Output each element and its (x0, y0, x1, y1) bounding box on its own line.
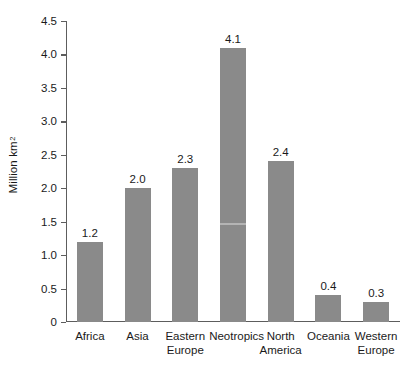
bar-value-label: 4.1 (225, 33, 241, 45)
bar-slot[interactable]: 2.4 (268, 161, 294, 322)
bar-slot[interactable]: 4.1 (220, 48, 246, 322)
x-category-label: EasternEurope (161, 330, 209, 357)
y-tick-label: 4.5 (41, 15, 57, 27)
x-category-label: NorthAmerica (257, 330, 305, 357)
y-tick-label: 4.0 (41, 48, 57, 60)
bar[interactable]: 4.1 (220, 48, 246, 322)
y-tick-label: 0 (51, 316, 57, 328)
bar-chart: Million km2 00.51.01.52.02.53.03.54.04.5… (0, 0, 416, 368)
x-category-label: WesternEurope (352, 330, 400, 357)
y-tick-label: 1.0 (41, 249, 57, 261)
y-tick-label: 3.5 (41, 82, 57, 94)
x-category-label: Neotropics (209, 330, 257, 344)
bar[interactable]: 0.4 (315, 295, 341, 322)
x-category-label: Africa (66, 330, 114, 344)
y-axis-label: Million km2 (2, 0, 24, 330)
bar-slot[interactable]: 0.3 (363, 302, 389, 322)
y-tick-label: 3.0 (41, 115, 57, 127)
bar-value-label: 1.2 (82, 227, 98, 239)
bar[interactable]: 0.3 (363, 302, 389, 322)
y-axis-label-text: Million km (7, 141, 19, 193)
bar-value-label: 2.0 (130, 173, 146, 185)
bar-slot[interactable]: 0.4 (315, 295, 341, 322)
bar[interactable]: 2.4 (268, 161, 294, 322)
bar[interactable]: 2.3 (172, 168, 198, 322)
y-tick-label: 2.0 (41, 182, 57, 194)
bar-value-label: 2.4 (273, 146, 289, 158)
y-tick-label: 2.5 (41, 149, 57, 161)
bar-value-label: 0.4 (320, 280, 336, 292)
bar-slot[interactable]: 1.2 (77, 242, 103, 322)
bar-value-label: 2.3 (177, 153, 193, 165)
x-category-label: Asia (114, 330, 162, 344)
bar[interactable]: 1.2 (77, 242, 103, 322)
bar-slot[interactable]: 2.3 (172, 168, 198, 322)
y-tick-label: 1.5 (41, 216, 57, 228)
x-category-label: Oceania (305, 330, 353, 344)
y-tick-mark (61, 322, 66, 323)
y-tick-label: 0.5 (41, 283, 57, 295)
bar-value-label: 0.3 (368, 287, 384, 299)
plot-area: 00.51.01.52.02.53.03.54.04.5 1.22.02.34.… (66, 21, 400, 322)
x-axis-category-labels: AfricaAsiaEasternEuropeNeotropicsNorthAm… (66, 330, 400, 364)
bar-series: 1.22.02.34.12.40.40.3 (66, 21, 400, 322)
bar-slot[interactable]: 2.0 (125, 188, 151, 322)
bar[interactable]: 2.0 (125, 188, 151, 322)
